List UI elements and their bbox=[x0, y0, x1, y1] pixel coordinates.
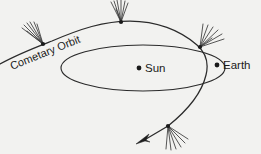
comet-lower bbox=[166, 124, 188, 150]
earth-orbit-ellipse bbox=[61, 45, 225, 91]
cometary-orbit-path bbox=[0, 21, 207, 139]
comet-upper-left-tail bbox=[22, 22, 43, 44]
motion-arrow-icon bbox=[136, 134, 150, 144]
comet-right-nucleus bbox=[198, 45, 202, 49]
earth-label: Earth bbox=[223, 59, 251, 71]
comet-right-tail bbox=[200, 24, 224, 47]
earth-dot bbox=[215, 63, 220, 68]
cometary-orbit-label: Cometary Orbit bbox=[8, 33, 82, 72]
comet-top-tail bbox=[111, 0, 128, 22]
diagram-canvas: Sun Earth Cometary Orbit bbox=[0, 0, 261, 154]
comet-upper-left bbox=[22, 22, 45, 46]
comet-lower-tail bbox=[166, 126, 188, 150]
sun-dot bbox=[137, 66, 142, 71]
comet-right bbox=[198, 24, 224, 49]
sun-label: Sun bbox=[145, 62, 165, 74]
comet-orbit-diagram: Sun Earth Cometary Orbit bbox=[0, 0, 261, 154]
comet-top-nucleus bbox=[119, 20, 123, 24]
comet-lower-nucleus bbox=[166, 124, 170, 128]
